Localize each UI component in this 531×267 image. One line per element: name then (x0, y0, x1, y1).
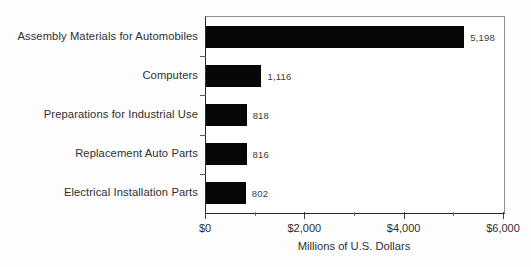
plot-area: 5,198 1,116 818 816 802 (205, 16, 505, 214)
bar-value-label: 5,198 (470, 31, 495, 42)
category-label: Replacement Auto Parts (75, 147, 198, 159)
x-axis-minor-tick (453, 212, 454, 216)
y-axis-label-row: Computers (0, 55, 198, 94)
bar[interactable] (206, 65, 261, 87)
bar[interactable] (206, 104, 247, 126)
category-label: Preparations for Industrial Use (44, 108, 198, 120)
bar-row: 802 (206, 174, 504, 213)
x-axis-tick-label: $4,000 (387, 222, 421, 234)
y-axis-category-labels: Assembly Materials for Automobiles Compu… (0, 16, 198, 212)
x-axis-major-tick (404, 212, 405, 219)
x-axis-major-tick (503, 212, 504, 219)
category-label: Computers (142, 69, 198, 81)
x-axis: $0$2,000$4,000$6,000 Millions of U.S. Do… (205, 212, 503, 267)
x-axis-title: Millions of U.S. Dollars (205, 240, 503, 252)
bar-value-label: 802 (252, 188, 268, 199)
category-label: Assembly Materials for Automobiles (17, 30, 198, 42)
bar-row: 816 (206, 135, 504, 174)
bar-row: 818 (206, 95, 504, 134)
y-axis-label-row: Replacement Auto Parts (0, 134, 198, 173)
bar[interactable] (206, 26, 464, 48)
bar-value-label: 1,116 (267, 70, 291, 81)
x-axis-major-tick (304, 212, 305, 219)
y-axis-label-row: Preparations for Industrial Use (0, 94, 198, 133)
category-label: Electrical Installation Parts (64, 186, 198, 198)
y-axis-label-row: Assembly Materials for Automobiles (0, 16, 198, 55)
x-axis-tick-label: $0 (199, 222, 211, 234)
bar[interactable] (206, 143, 247, 165)
x-axis-tick-label: $2,000 (288, 222, 322, 234)
y-axis-label-row: Electrical Installation Parts (0, 173, 198, 212)
bar-row: 1,116 (206, 56, 504, 95)
x-axis-minor-tick (255, 212, 256, 216)
x-axis-tick-label: $6,000 (486, 222, 520, 234)
bar-value-label: 816 (253, 149, 269, 160)
bar-value-label: 818 (253, 109, 269, 120)
bar[interactable] (206, 182, 246, 204)
x-axis-minor-tick (354, 212, 355, 216)
chart-figure: Assembly Materials for Automobiles Compu… (0, 0, 531, 267)
bar-row: 5,198 (206, 17, 504, 56)
x-axis-major-tick (205, 212, 206, 219)
